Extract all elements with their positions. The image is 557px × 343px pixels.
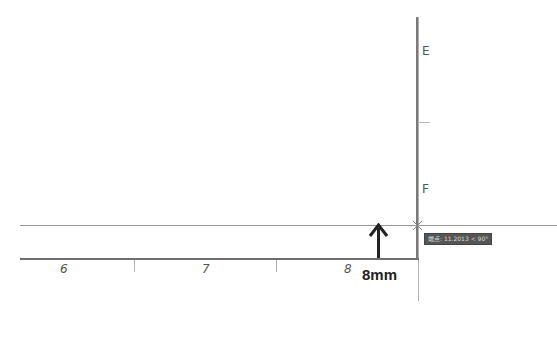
ruler-label-6: 6 bbox=[60, 262, 68, 276]
ruler-label-7: 7 bbox=[202, 262, 210, 276]
ruler-tick bbox=[418, 122, 430, 123]
ruler-label-8: 8 bbox=[344, 262, 352, 276]
horizontal-guide-line bbox=[20, 225, 557, 226]
horizontal-ruler[interactable] bbox=[20, 258, 419, 260]
ruler-label-e: E bbox=[422, 44, 430, 58]
measurement-label: 8mm bbox=[362, 266, 397, 283]
arrow-up-icon bbox=[369, 223, 388, 237]
ruler-tick bbox=[134, 260, 135, 272]
ruler-tick bbox=[276, 260, 277, 272]
snap-cross-icon bbox=[412, 220, 423, 231]
ruler-label-f: F bbox=[422, 182, 429, 196]
snap-tooltip: 端点: 11.2013 < 90° bbox=[424, 233, 492, 245]
